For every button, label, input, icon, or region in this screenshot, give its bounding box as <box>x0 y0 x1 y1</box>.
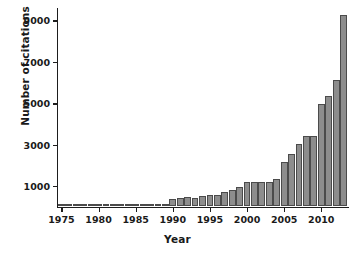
bar <box>221 192 228 207</box>
bar <box>80 204 87 206</box>
bar <box>65 204 72 206</box>
bar <box>199 196 206 206</box>
bar <box>132 204 139 206</box>
bar <box>192 198 199 207</box>
bar <box>184 197 191 206</box>
bar <box>325 96 332 206</box>
y-tick <box>53 62 58 63</box>
bar <box>288 154 295 207</box>
bar <box>310 136 317 207</box>
citations-bar-chart: Number of citations Year 100030005000700… <box>0 0 355 254</box>
y-tick-label: 5000 <box>24 98 50 109</box>
bar <box>214 195 221 206</box>
bar <box>207 195 214 207</box>
x-tick <box>99 208 100 212</box>
bar <box>177 198 184 206</box>
y-tick <box>53 20 58 21</box>
y-tick-label: 9000 <box>24 15 50 26</box>
x-tick-label: 1990 <box>160 214 186 225</box>
bar <box>303 136 310 207</box>
bar <box>73 204 80 206</box>
y-tick-label: 3000 <box>24 139 50 150</box>
y-tick <box>53 186 58 187</box>
x-tick-label: 1985 <box>122 214 148 225</box>
bar <box>155 204 162 207</box>
bar <box>251 182 258 206</box>
x-tick-label: 1975 <box>48 214 74 225</box>
plot-area: 10003000500070009000 1975198019851990199… <box>57 8 348 207</box>
bar <box>117 204 124 206</box>
bar <box>169 199 176 207</box>
x-tick-label: 2000 <box>234 214 260 225</box>
bar <box>273 179 280 206</box>
bar <box>103 204 110 206</box>
x-tick <box>321 208 322 212</box>
x-tick <box>284 208 285 212</box>
x-tick <box>210 208 211 212</box>
bar <box>162 204 169 207</box>
x-tick <box>61 208 62 212</box>
x-tick-label: 1980 <box>85 214 111 225</box>
bar <box>281 162 288 207</box>
bar <box>333 80 340 206</box>
bar <box>140 204 147 206</box>
x-tick-label: 2005 <box>271 214 297 225</box>
bar <box>340 15 347 207</box>
bar <box>236 187 243 207</box>
bar <box>95 204 102 206</box>
bar <box>88 204 95 206</box>
x-tick <box>136 208 137 212</box>
bar <box>229 190 236 206</box>
bar <box>147 204 154 206</box>
x-tick <box>173 208 174 212</box>
bar <box>110 204 117 206</box>
x-tick-label: 1995 <box>197 214 223 225</box>
bar <box>318 104 325 206</box>
x-tick <box>247 208 248 212</box>
bar <box>58 204 65 206</box>
y-axis-line <box>57 8 58 208</box>
y-tick-label: 1000 <box>24 181 50 192</box>
bar <box>266 182 273 206</box>
bar <box>244 182 251 206</box>
y-tick-label: 7000 <box>24 56 50 67</box>
x-tick-label: 2010 <box>308 214 334 225</box>
x-axis-title: Year <box>0 233 355 245</box>
bar <box>125 204 132 206</box>
y-tick <box>53 145 58 146</box>
x-axis-line <box>57 207 349 208</box>
bar <box>296 144 303 207</box>
y-tick <box>53 103 58 104</box>
bar <box>258 182 265 206</box>
